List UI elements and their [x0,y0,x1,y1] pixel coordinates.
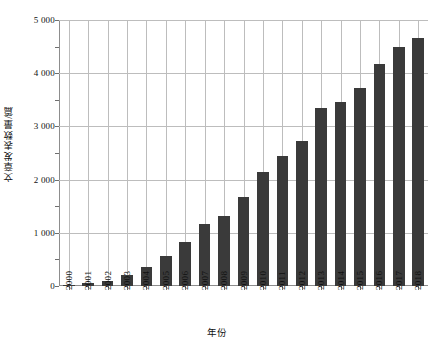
gridline-vertical [88,20,89,286]
bar [393,47,405,286]
gridline-vertical [146,20,147,286]
x-tick-label: 2014 [336,271,346,290]
bar [412,38,424,286]
bar [296,141,308,286]
y-tick-minor [55,47,59,48]
y-tick-minor [55,259,59,260]
y-axis-title: 文章发表数量/篇 [0,0,18,286]
y-tick-major [55,180,59,181]
bar [257,172,269,286]
x-tick-label: 2017 [394,271,404,290]
x-tick-label: 2011 [277,271,287,290]
y-tick-minor [55,206,59,207]
x-tick-label: 2009 [239,271,249,290]
x-tick-label: 2015 [355,271,365,290]
x-tick-label: 2008 [219,271,229,290]
x-axis-tick-labels: 2000200120022003200420052006200720082009… [59,290,428,330]
gridline-vertical [108,20,109,286]
x-tick-label: 2004 [141,271,151,290]
x-tick-label: 2001 [83,271,93,290]
x-tick-label: 2007 [200,271,210,290]
y-tick-label: 2 000 [34,175,55,185]
bar [374,64,386,286]
y-tick-label: 5 000 [34,15,55,25]
y-axis-tick-labels: 01 0002 0003 0004 0005 000 [18,0,58,300]
bar [277,156,289,286]
x-tick-label: 2005 [161,271,171,290]
bar [335,102,347,286]
gridline-vertical [69,20,70,286]
y-tick-major [55,233,59,234]
x-tick-label: 2003 [122,271,132,290]
gridline-vertical [166,20,167,286]
y-axis-line [59,20,60,286]
y-tick-label: 1 000 [34,228,55,238]
plot-area [59,20,428,286]
y-tick-label: 4 000 [34,68,55,78]
y-tick-major [55,20,59,21]
x-tick-label: 2002 [103,271,113,290]
x-axis-title: 年份 [0,325,434,339]
y-tick-minor [55,100,59,101]
y-tick-major [55,73,59,74]
bar [315,108,327,286]
x-tick-label: 2012 [297,271,307,290]
x-tick-label: 2010 [258,271,268,290]
y-tick-minor [55,153,59,154]
x-tick-label: 2016 [374,271,384,290]
bar [354,88,366,286]
x-tick-label: 2006 [180,271,190,290]
x-tick-label: 2013 [316,271,326,290]
x-tick-label: 2018 [413,271,423,290]
x-tick-label: 2000 [64,271,74,290]
gridline-vertical [127,20,128,286]
y-axis-title-label: 文章发表数量/篇 [2,105,16,182]
bar-chart: 文章发表数量/篇 01 0002 0003 0004 0005 000 2000… [0,0,434,349]
y-tick-major [55,126,59,127]
y-tick-major [55,286,59,287]
y-tick-label: 3 000 [34,121,55,131]
